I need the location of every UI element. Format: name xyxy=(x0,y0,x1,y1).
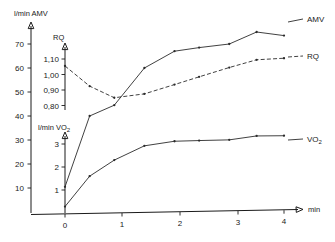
datapoint-rq-7 xyxy=(255,59,257,61)
series-label-rq: RQ xyxy=(307,52,319,61)
series-label-vo2: VO2 xyxy=(307,135,323,145)
datapoint-amv-5 xyxy=(198,46,200,48)
datapoint-rq-6 xyxy=(228,66,230,68)
vo2-axis: l/min VO2 3 2 1 xyxy=(38,123,71,213)
amv-ticklabel-70: 70 xyxy=(15,40,24,49)
series-label-amv: AMV xyxy=(307,15,325,24)
datapoint-rq-5 xyxy=(198,76,200,78)
rq-axis: RQ 1,10 1,00 0,90 0,80 xyxy=(43,33,67,111)
vo2-axis-label-text: l/min VO xyxy=(38,123,67,132)
amv-label-leadline xyxy=(288,19,303,22)
amv-axis-label: l/min AMV xyxy=(14,9,48,18)
datapoint-amv-7 xyxy=(255,31,257,33)
datapoint-rq-3 xyxy=(143,93,145,95)
x-ticklabel-4: 4 xyxy=(282,217,287,226)
x-axis: min 0 1 2 3 4 xyxy=(31,205,320,230)
amv-ticklabel-60: 60 xyxy=(15,64,24,73)
vo2-ticklabel-2: 2 xyxy=(55,163,60,172)
curve-vo2 xyxy=(65,136,284,207)
amv-ticklabel-10: 10 xyxy=(15,184,24,193)
datapoint-vo2-5 xyxy=(198,139,200,141)
x-ticklabel-3: 3 xyxy=(236,218,241,227)
rq-label-leadline xyxy=(288,56,303,57)
vo2-ticklabel-1: 1 xyxy=(55,186,60,195)
rq-axis-label: RQ xyxy=(53,33,64,42)
series-label-vo2-text: VO xyxy=(307,135,319,144)
datapoint-vo2-4 xyxy=(173,140,175,142)
datapoint-vo2-7 xyxy=(255,135,257,137)
datapoint-vo2-2 xyxy=(113,159,115,161)
x-axis-line xyxy=(31,210,298,215)
datapoint-amv-4 xyxy=(173,50,175,52)
x-ticklabel-0: 0 xyxy=(63,221,68,230)
vo2-axis-label: l/min VO2 xyxy=(38,123,71,133)
respiratory-response-chart: l/min AMV 70 60 50 40 30 20 10 RQ 1,10 1… xyxy=(0,0,335,242)
datapoint-amv-0 xyxy=(64,186,66,188)
rq-ticklabel-090: 0,90 xyxy=(43,86,59,95)
series-labels: AMV RQ VO2 xyxy=(288,15,325,145)
datapoint-rq-0 xyxy=(64,65,66,67)
datapoint-vo2-6 xyxy=(228,139,230,141)
rq-ticklabel-080: 0,80 xyxy=(43,102,59,111)
datapoint-rq-8 xyxy=(283,57,285,59)
datapoint-amv-8 xyxy=(283,34,285,36)
datapoint-amv-1 xyxy=(88,115,90,117)
datapoint-vo2-1 xyxy=(88,175,90,177)
amv-ticklabel-40: 40 xyxy=(15,112,24,121)
chart-canvas: l/min AMV 70 60 50 40 30 20 10 RQ 1,10 1… xyxy=(0,0,335,242)
curve-rq xyxy=(65,58,284,98)
datapoint-amv-6 xyxy=(228,43,230,45)
vo2-axis-label-subscript: 2 xyxy=(67,127,71,133)
amv-axis: l/min AMV 70 60 50 40 30 20 10 xyxy=(14,9,48,213)
x-ticklabel-2: 2 xyxy=(178,219,183,228)
series-label-vo2-subscript: 2 xyxy=(319,139,323,145)
datapoint-rq-4 xyxy=(173,83,175,85)
datapoint-rq-2 xyxy=(113,97,115,99)
datapoint-amv-3 xyxy=(143,67,145,69)
series-layer xyxy=(64,31,285,208)
curve-amv xyxy=(65,32,284,187)
vo2-label-leadline xyxy=(288,139,303,140)
amv-ticklabel-20: 20 xyxy=(15,160,24,169)
amv-ticklabel-50: 50 xyxy=(15,88,24,97)
rq-ticklabel-110: 1,10 xyxy=(43,55,59,64)
x-ticklabel-1: 1 xyxy=(120,220,125,229)
vo2-ticklabel-3: 3 xyxy=(55,140,60,149)
amv-ticklabel-30: 30 xyxy=(15,136,24,145)
datapoint-vo2-3 xyxy=(143,145,145,147)
datapoint-rq-1 xyxy=(88,85,90,87)
datapoint-vo2-8 xyxy=(283,135,285,137)
x-axis-label: min xyxy=(308,205,320,214)
rq-ticklabel-100: 1,00 xyxy=(43,71,59,80)
datapoint-amv-2 xyxy=(113,104,115,106)
datapoint-vo2-0 xyxy=(64,205,66,207)
